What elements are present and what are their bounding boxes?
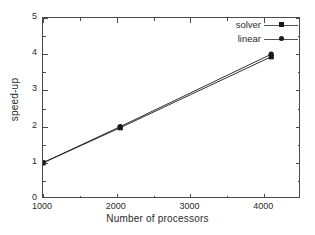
y-tick-label: 2 xyxy=(20,121,37,130)
data-point-linear xyxy=(118,124,123,129)
y-tick-label: 4 xyxy=(20,48,37,57)
legend-label: solver xyxy=(236,19,261,31)
chart-legend: solverlinear xyxy=(150,19,298,47)
chart-figure: 012345 1000200030004000 Number of proces… xyxy=(0,0,315,235)
legend-sample-marker-square xyxy=(279,22,284,27)
x-tick-label: 1000 xyxy=(22,202,62,211)
legend-label: linear xyxy=(238,33,261,45)
y-axis-title: speed-up xyxy=(9,65,20,135)
series-line-linear xyxy=(43,54,271,163)
x-axis-title: Number of processors xyxy=(0,213,315,224)
legend-sample-solver xyxy=(264,19,298,31)
x-tick-label: 2000 xyxy=(96,202,136,211)
x-tick-label: 3000 xyxy=(169,202,209,211)
y-tick-label: 3 xyxy=(20,84,37,93)
data-point-linear xyxy=(269,52,274,57)
legend-sample-linear xyxy=(264,33,298,45)
legend-item-solver: solver xyxy=(150,19,298,31)
y-tick-label: 1 xyxy=(20,157,37,166)
y-tick-label: 5 xyxy=(20,12,37,21)
legend-sample-marker-circle xyxy=(279,36,284,41)
legend-item-linear: linear xyxy=(150,33,298,45)
x-tick-label: 4000 xyxy=(243,202,283,211)
